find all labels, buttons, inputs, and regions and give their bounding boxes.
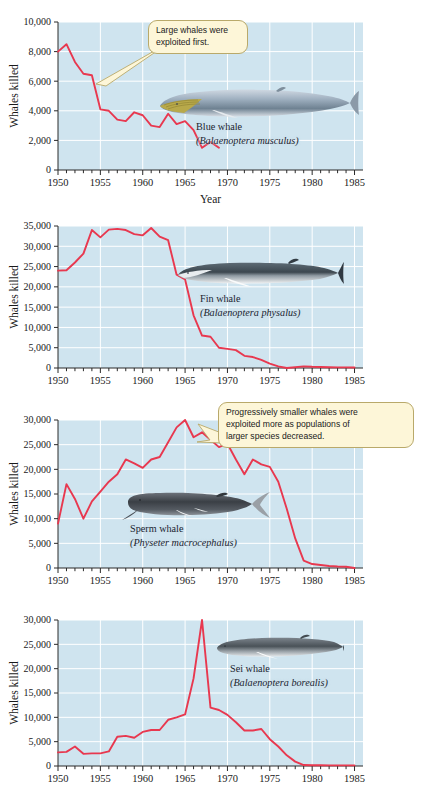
x-tick-label: 1980 [302, 773, 323, 784]
x-tick-label: 1965 [175, 575, 196, 586]
y-tick-label: 25,000 [24, 439, 52, 450]
y-tick-label: 10,000 [24, 513, 52, 524]
x-tick-label: 1950 [48, 375, 69, 386]
x-tick-label: 1960 [132, 575, 153, 586]
y-tick-label: 35,000 [24, 220, 52, 231]
x-tick-label: 1960 [132, 177, 153, 188]
blue-whale-illustration [150, 82, 360, 124]
species-scientific-name: (Balaenoptera borealis) [230, 676, 328, 690]
x-tick-label: 1955 [90, 177, 111, 188]
y-tick-label: 30,000 [24, 414, 52, 425]
species-scientific-name: (Physeter macrocephalus) [130, 536, 237, 550]
y-tick-label: 10,000 [24, 712, 52, 723]
sperm-whale-illustration [120, 488, 270, 522]
x-tick-label: 1950 [48, 575, 69, 586]
y-tick-label: 25,000 [24, 639, 52, 650]
y-tick-label: 20,000 [24, 281, 52, 292]
y-axis-title: Whales killed [8, 462, 20, 526]
x-tick-label: 1985 [344, 177, 365, 188]
x-tick-label: 1980 [302, 177, 323, 188]
y-tick-label: 15,000 [24, 687, 52, 698]
x-tick-label: 1965 [175, 177, 196, 188]
chart-sei-whale: 05,00010,00015,00020,00025,00030,0001950… [0, 604, 422, 803]
x-tick-label: 1970 [217, 177, 238, 188]
species-scientific-name: (Balaenoptera musculus) [196, 134, 299, 148]
x-tick-label: 1955 [90, 773, 111, 784]
species-common-name: Sperm whale [130, 523, 183, 534]
fin-whale-illustration [172, 258, 344, 288]
x-tick-label: 1970 [217, 575, 238, 586]
x-tick-label: 1985 [344, 773, 365, 784]
y-tick-label: 20,000 [24, 663, 52, 674]
y-tick-label: 15,000 [24, 488, 52, 499]
x-tick-label: 1950 [48, 773, 69, 784]
x-tick-label: 1970 [217, 375, 238, 386]
y-axis-title: Whales killed [8, 265, 20, 329]
y-tick-label: 30,000 [24, 241, 52, 252]
x-tick-label: 1985 [344, 575, 365, 586]
sei-whale-illustration [212, 634, 344, 660]
x-tick-label: 1975 [259, 375, 280, 386]
y-tick-label: 30,000 [24, 614, 52, 625]
x-tick-label: 1985 [344, 375, 365, 386]
species-common-name: Fin whale [200, 293, 240, 304]
species-caption-sperm-whale: Sperm whale (Physeter macrocephalus) [130, 522, 237, 550]
y-tick-label: 5,000 [29, 342, 52, 353]
x-tick-label: 1980 [302, 575, 323, 586]
y-tick-label: 4,000 [29, 105, 52, 116]
y-tick-label: 25,000 [24, 261, 52, 272]
chart-panel-sei-whale: 05,00010,00015,00020,00025,00030,0001950… [0, 604, 422, 803]
callout-smaller-whales: Progressively smaller whales were exploi… [218, 402, 414, 448]
x-tick-label: 1975 [259, 575, 280, 586]
y-axis-title: Whales killed [8, 64, 20, 128]
y-tick-label: 10,000 [24, 322, 52, 333]
x-tick-label: 1965 [175, 375, 196, 386]
x-tick-label: 1965 [175, 773, 196, 784]
y-tick-label: 0 [46, 164, 51, 175]
y-tick-label: 2,000 [29, 135, 52, 146]
species-common-name: Blue whale [196, 121, 242, 132]
callout-large-whales: Large whales were exploited first. [148, 20, 248, 54]
x-tick-label: 1975 [259, 177, 280, 188]
y-tick-label: 0 [46, 562, 51, 573]
species-common-name: Sei whale [230, 663, 270, 674]
y-tick-label: 6,000 [29, 76, 52, 87]
species-caption-blue-whale: Blue whale (Balaenoptera musculus) [196, 120, 299, 148]
y-tick-label: 8,000 [29, 46, 52, 57]
y-tick-label: 10,000 [24, 16, 52, 27]
x-tick-label: 1975 [259, 773, 280, 784]
whale-catch-figure: 02,0004,0006,0008,00010,0001950195519601… [0, 0, 422, 803]
x-tick-label: 1955 [90, 575, 111, 586]
y-tick-label: 5,000 [29, 538, 52, 549]
y-tick-label: 20,000 [24, 464, 52, 475]
x-tick-label: 1970 [217, 773, 238, 784]
species-caption-sei-whale: Sei whale (Balaenoptera borealis) [230, 662, 328, 690]
x-tick-label: 1960 [132, 375, 153, 386]
x-tick-label: 1955 [90, 375, 111, 386]
y-tick-label: 5,000 [29, 736, 52, 747]
x-tick-label: 1980 [302, 375, 323, 386]
y-tick-label: 0 [46, 760, 51, 771]
species-caption-fin-whale: Fin whale (Balaenoptera physalus) [200, 292, 300, 320]
x-axis-title: Year [200, 193, 221, 205]
x-tick-label: 1960 [132, 773, 153, 784]
y-tick-label: 15,000 [24, 302, 52, 313]
x-tick-label: 1950 [48, 177, 69, 188]
species-scientific-name: (Balaenoptera physalus) [200, 306, 300, 320]
y-axis-title: Whales killed [8, 661, 20, 725]
y-tick-label: 0 [46, 362, 51, 373]
